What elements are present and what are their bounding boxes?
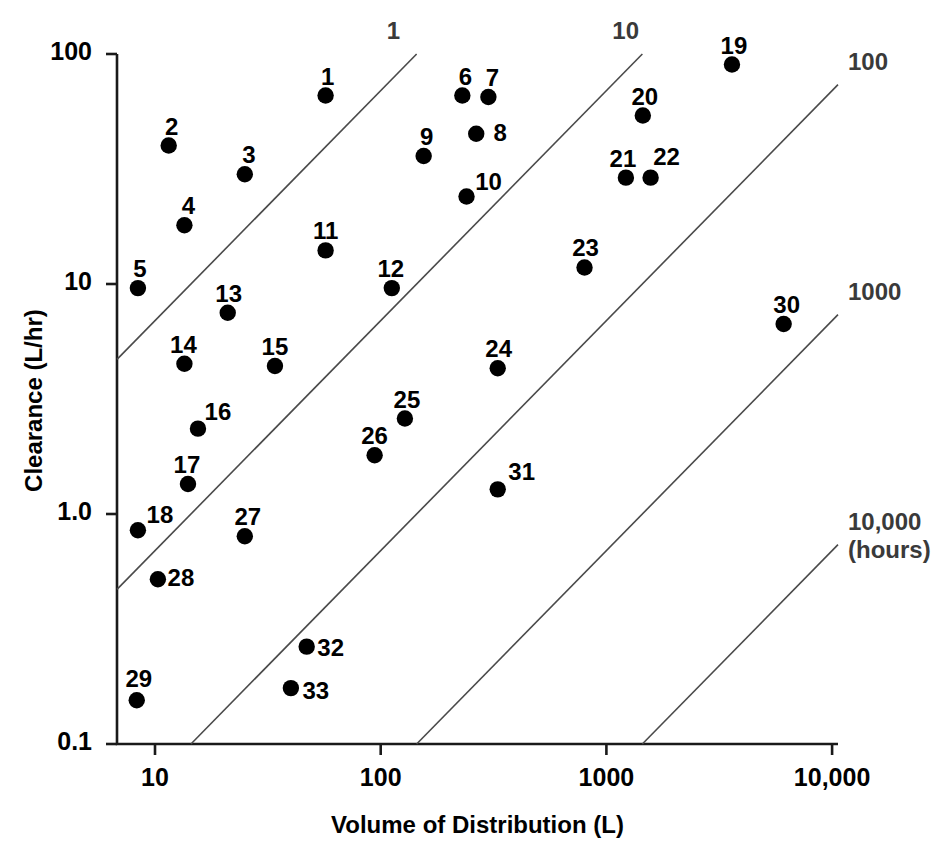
data-point[interactable] xyxy=(267,358,283,374)
iso-line xyxy=(642,545,838,744)
data-point-label: 9 xyxy=(407,124,447,149)
data-point-label: 29 xyxy=(119,666,159,691)
data-point[interactable] xyxy=(454,87,470,103)
data-point-label: 26 xyxy=(355,423,395,448)
data-point-label: 16 xyxy=(198,399,238,424)
iso-line xyxy=(117,54,642,589)
data-point-label: 18 xyxy=(140,502,180,527)
data-point-label: 7 xyxy=(472,65,512,90)
data-point-label: 25 xyxy=(387,387,427,412)
data-point[interactable] xyxy=(576,259,592,275)
data-point-label: 2 xyxy=(152,114,192,139)
data-point-label: 31 xyxy=(502,459,542,484)
data-point[interactable] xyxy=(366,447,382,463)
y-tick-label: 100 xyxy=(0,38,92,64)
data-point[interactable] xyxy=(130,280,146,296)
iso-line-label: 10,000 xyxy=(848,509,935,534)
data-point-label: 19 xyxy=(714,33,754,58)
x-tick-label: 10 xyxy=(75,764,235,790)
data-point-label: 17 xyxy=(167,452,207,477)
data-point-label: 8 xyxy=(480,120,520,145)
iso-line-unit-label: (hours) xyxy=(848,537,935,562)
data-point[interactable] xyxy=(775,316,791,332)
data-point-label: 30 xyxy=(767,292,807,317)
data-point[interactable] xyxy=(176,217,192,233)
data-point-label: 23 xyxy=(566,235,606,260)
iso-line-label: 1000 xyxy=(848,279,935,304)
data-point[interactable] xyxy=(724,56,740,72)
data-point-label: 10 xyxy=(469,169,509,194)
iso-line-label: 1 xyxy=(387,18,507,43)
data-point-label: 4 xyxy=(168,193,208,218)
data-point[interactable] xyxy=(129,692,145,708)
data-point-label: 13 xyxy=(209,281,249,306)
data-point[interactable] xyxy=(415,148,431,164)
data-point-label: 11 xyxy=(306,218,346,243)
data-point[interactable] xyxy=(618,169,634,185)
x-tick-label: 10,000 xyxy=(752,764,912,790)
data-point-label: 5 xyxy=(120,256,160,281)
data-point[interactable] xyxy=(160,137,176,153)
data-point-label: 14 xyxy=(163,332,203,357)
data-point-label: 3 xyxy=(229,142,269,167)
x-tick-label: 1000 xyxy=(526,764,686,790)
data-point-label: 21 xyxy=(603,146,643,171)
data-point[interactable] xyxy=(220,305,236,321)
data-point-label: 1 xyxy=(308,64,348,89)
data-point-label: 32 xyxy=(311,635,351,660)
data-point-label: 20 xyxy=(625,84,665,109)
data-point-label: 33 xyxy=(296,678,336,703)
iso-line xyxy=(117,54,417,359)
data-point-label: 15 xyxy=(255,334,295,359)
y-tick-label: 0.1 xyxy=(0,728,92,754)
data-point[interactable] xyxy=(642,169,658,185)
data-point[interactable] xyxy=(635,107,651,123)
data-point[interactable] xyxy=(237,166,253,182)
data-point[interactable] xyxy=(317,242,333,258)
data-point-label: 12 xyxy=(371,256,411,281)
data-point-label: 28 xyxy=(161,565,201,590)
data-point[interactable] xyxy=(490,360,506,376)
x-axis-title: Volume of Distribution (L) xyxy=(117,812,838,837)
data-point-label: 24 xyxy=(479,336,519,361)
data-point[interactable] xyxy=(480,89,496,105)
data-point[interactable] xyxy=(237,528,253,544)
data-point-label: 27 xyxy=(228,504,268,529)
data-point-label: 22 xyxy=(647,144,687,169)
y-axis-title: Clearance (L/hr) xyxy=(21,271,46,531)
data-point[interactable] xyxy=(384,280,400,296)
iso-line xyxy=(417,315,838,744)
iso-line-label: 100 xyxy=(848,49,935,74)
x-tick-label: 100 xyxy=(301,764,461,790)
data-point[interactable] xyxy=(180,476,196,492)
data-point[interactable] xyxy=(397,410,413,426)
data-point[interactable] xyxy=(176,356,192,372)
data-point[interactable] xyxy=(317,87,333,103)
